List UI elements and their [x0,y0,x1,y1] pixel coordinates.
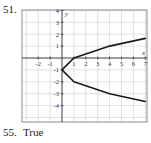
y-tick-label: -2 [54,78,59,85]
answer-line: 55.True [3,126,43,138]
answer-number: 55. [3,126,23,138]
x-tick-label: 5 [120,60,123,67]
y-tick-label: 1 [56,42,59,49]
x-tick-label: -1 [47,60,52,67]
x-tick-label: -2 [35,60,40,67]
parabola-graph: -2-112345674321-1-2-3-4 x y [0,0,151,143]
y-tick-label: 2 [56,31,59,38]
answer-text: True [23,126,43,138]
x-tick-label: 3 [96,60,99,67]
x-tick-label: 2 [84,60,87,67]
y-tick-label: -1 [54,66,59,73]
y-tick-label: 3 [56,19,59,26]
y-tick-label: -4 [54,102,60,109]
y-tick-label: -3 [54,90,59,97]
x-tick-label: 4 [108,60,112,67]
y-axis-label: y [64,10,69,18]
x-tick-label: 6 [132,60,136,67]
x-tick-label: 1 [72,60,75,67]
